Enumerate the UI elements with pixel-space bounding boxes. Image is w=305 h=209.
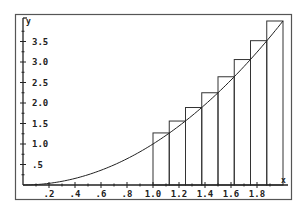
x-tick-label: .4	[70, 189, 81, 199]
y-tick-label: .5	[32, 160, 43, 170]
x-axis-label: x	[281, 176, 286, 185]
riemann-sum-chart: .2.4.6.81.01.21.41.61.8 .51.01.52.02.53.…	[0, 0, 305, 209]
y-tick-label: 1.5	[32, 119, 48, 129]
y-tick-label: 3.5	[32, 37, 48, 47]
x-tick-label: 1.8	[249, 189, 265, 199]
x-tick-label: 1.4	[197, 189, 214, 199]
x-tick-label: 1.0	[145, 189, 161, 199]
y-tick-label: 2.0	[32, 98, 48, 108]
x-tick-label: .8	[122, 189, 133, 199]
y-axis-label: y	[26, 17, 31, 26]
x-tick-label: 1.6	[223, 189, 239, 199]
y-tick-label: 3.0	[32, 57, 48, 67]
x-tick-label: .2	[44, 189, 55, 199]
x-tick-label: 1.2	[171, 189, 187, 199]
x-tick-label: .6	[96, 189, 107, 199]
y-tick-label: 1.0	[32, 139, 48, 149]
y-tick-label: 2.5	[32, 78, 48, 88]
